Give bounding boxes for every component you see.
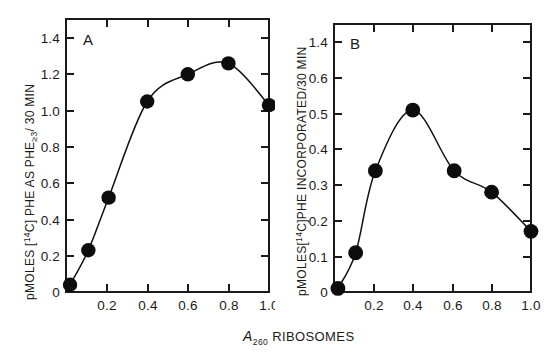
x-tick-label: 0.4: [138, 298, 158, 313]
panel-b-frame: [334, 24, 531, 292]
ylabel-subscript: ≥3: [29, 132, 39, 142]
y-tick-label: 1.2: [41, 67, 60, 82]
x-tick-label: 0.8: [482, 298, 501, 313]
panel-a-right-ticks: [261, 38, 269, 256]
panel-b-x-ticks: [374, 284, 531, 292]
y-tick-label: 0.6: [309, 71, 328, 86]
panel-b-letter: B: [350, 35, 360, 52]
svg-text:pMOLES[14C]PHE INCORPORATED/30: pMOLES[14C]PHE INCORPORATED/30 MIN: [294, 47, 309, 297]
figure-root: pMOLES [14C] PHE AS PHE≥3/ 30 MIN: [0, 0, 550, 357]
panel-a-x-tick-labels: 0.2 0.4 0.6 0.8 1.0: [97, 298, 275, 313]
y-tick-label: 0: [320, 285, 328, 300]
ylabel-middle: ]PHE INCORPORATED/30 MIN: [295, 47, 309, 223]
data-point: [140, 94, 154, 108]
y-tick-label: 1.0: [41, 104, 60, 119]
x-tick-label: 0.6: [443, 298, 462, 313]
x-tick-label: 0.4: [403, 298, 423, 313]
panel-b: pMOLES[14C]PHE INCORPORATED/30 MIN: [275, 0, 550, 357]
panel-b-series: [331, 103, 539, 296]
panel-a-frame: [66, 19, 269, 292]
panel-b-y-tick-labels: 1.4 0.6 0.5 0.4 0.3 0.2 0.1 0: [309, 35, 329, 300]
y-tick-label: 0.2: [41, 249, 60, 264]
y-tick-label: 0.1: [309, 250, 328, 265]
ylabel-isotope-element: C: [295, 223, 309, 232]
y-tick-label: 1.4: [41, 31, 61, 46]
ylabel-middle: ] PHE AS PHE: [23, 142, 37, 224]
panel-b-y-major-ticks: [334, 42, 342, 292]
y-tick-label: 0.5: [309, 107, 328, 122]
panel-a-markers: [63, 56, 275, 292]
panel-b-top-ticks: [374, 24, 531, 32]
panel-a-y-tick-labels: 1.4 1.2 1.0 0.8 0.6 0.4 0.2 0: [41, 31, 61, 300]
ylabel-suffix: / 30 MIN: [23, 84, 37, 132]
y-tick-label: 0.8: [41, 140, 60, 155]
x-tick-label: 1.0: [521, 298, 540, 313]
data-point: [484, 185, 499, 200]
ylabel-isotope-superscript: 14: [22, 232, 32, 242]
y-tick-label: 0: [52, 285, 60, 300]
data-point: [524, 224, 539, 239]
panel-a-yaxis-title: pMOLES [14C] PHE AS PHE≥3/ 30 MIN: [22, 84, 39, 300]
x-tick-label: 1.0: [259, 298, 275, 313]
panel-b-markers: [331, 103, 539, 296]
data-point: [405, 103, 420, 118]
data-point: [63, 278, 77, 292]
y-tick-label: 0.3: [309, 178, 328, 193]
data-point: [331, 281, 346, 296]
y-tick-label: 0.4: [309, 142, 329, 157]
panel-a: pMOLES [14C] PHE AS PHE≥3/ 30 MIN: [0, 0, 275, 357]
data-point: [447, 163, 462, 178]
x-tick-label: 0.6: [178, 298, 197, 313]
y-tick-label: 0.6: [41, 176, 60, 191]
panel-b-curve: [338, 110, 531, 288]
data-point: [181, 67, 195, 81]
data-point: [81, 243, 95, 257]
x-tick-label: 0.2: [364, 298, 383, 313]
y-tick-label: 0.4: [41, 213, 61, 228]
panel-a-plot: pMOLES [14C] PHE AS PHE≥3/ 30 MIN: [0, 0, 275, 357]
panel-a-y-major-ticks: [66, 38, 74, 292]
data-point: [221, 56, 235, 70]
y-tick-label: 0.2: [309, 214, 328, 229]
data-point: [368, 163, 383, 178]
panel-b-yaxis-title: pMOLES[14C]PHE INCORPORATED/30 MIN: [294, 47, 309, 297]
panel-b-x-tick-labels: 0.2 0.4 0.6 0.8 1.0: [364, 298, 540, 313]
panel-a-top-ticks: [107, 19, 229, 27]
ylabel-prefix: pMOLES [: [23, 242, 37, 300]
y-tick-label: 1.4: [309, 35, 329, 50]
x-tick-label: 0.8: [219, 298, 238, 313]
ylabel-isotope-superscript: 14: [294, 232, 304, 242]
panel-a-curve: [70, 62, 269, 285]
panel-a-series: [63, 56, 275, 292]
ylabel-prefix: pMOLES[: [295, 242, 309, 296]
svg-text:pMOLES [14C] PHE AS PHE≥3/ 30: pMOLES [14C] PHE AS PHE≥3/ 30 MIN: [22, 84, 39, 300]
panel-a-x-ticks: [107, 284, 269, 292]
x-tick-label: 0.2: [97, 298, 116, 313]
ylabel-isotope-element: C: [23, 223, 37, 232]
panel-b-plot: pMOLES[14C]PHE INCORPORATED/30 MIN: [275, 0, 550, 357]
panel-a-letter: A: [83, 31, 93, 48]
data-point: [348, 245, 363, 260]
data-point: [101, 190, 115, 204]
